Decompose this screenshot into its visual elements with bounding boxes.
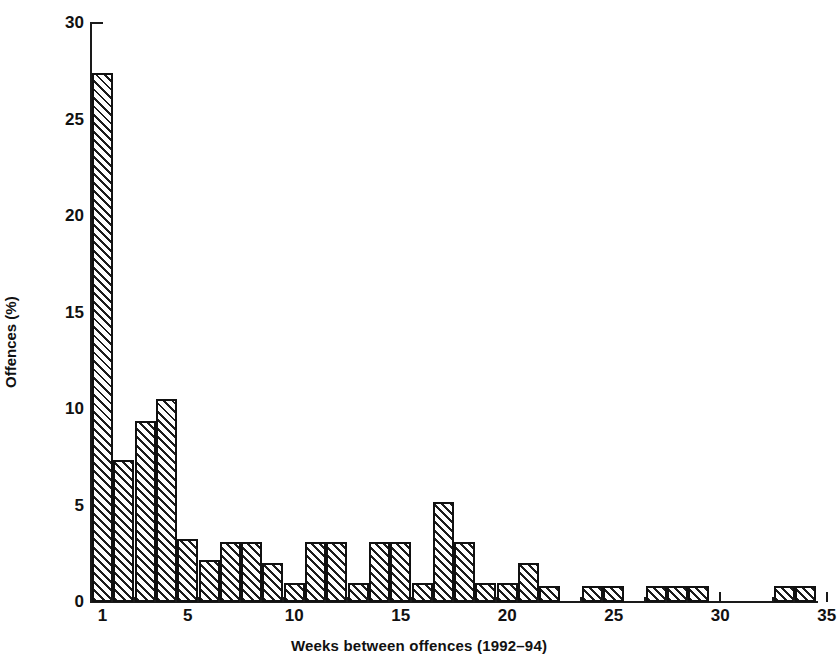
x-tick-label-35: 35 (807, 607, 838, 624)
bar-baseline-nub (772, 597, 774, 602)
bar-baseline-nub (154, 597, 156, 602)
bar-week-4 (156, 399, 177, 602)
x-tick-label-25: 25 (594, 607, 634, 624)
y-tick-label-20: 20 (38, 207, 84, 224)
x-tick-label-1: 1 (83, 607, 123, 624)
bar-week-27 (646, 586, 667, 602)
y-tick-label-25: 25 (38, 111, 84, 128)
y-axis-title: Offences (%) (2, 370, 19, 388)
bar-baseline-nub (133, 597, 135, 602)
bar-week-11 (305, 542, 326, 602)
y-tick-label-10: 10 (38, 400, 84, 417)
x-tick-label-20: 20 (487, 607, 527, 624)
bar-baseline-nub (111, 597, 113, 602)
bar-week-15 (390, 542, 411, 602)
bar-baseline-nub (431, 597, 433, 602)
x-tick-35 (826, 592, 828, 602)
bar-week-34 (795, 586, 816, 602)
bar-week-28 (667, 586, 688, 602)
bar-week-20 (497, 583, 518, 602)
bar-week-18 (454, 542, 475, 602)
bar-week-17 (433, 502, 454, 602)
bar-baseline-nub (495, 597, 497, 602)
bar-week-33 (774, 586, 795, 602)
bar-week-21 (518, 563, 539, 602)
bar-baseline-nub (410, 597, 412, 602)
bar-baseline-nub (793, 597, 795, 602)
x-tick-label-30: 30 (700, 607, 740, 624)
bar-week-5 (177, 539, 198, 602)
bar-week-29 (688, 586, 709, 602)
histogram-chart: 051015202530 15101520253035 Offences (%)… (0, 0, 838, 666)
bar-baseline-nub (644, 597, 646, 602)
x-tick-label-15: 15 (381, 607, 421, 624)
bar-baseline-nub (90, 597, 92, 602)
bar-baseline-nub (601, 597, 603, 602)
x-axis-title: Weeks between offences (1992–94) (0, 637, 838, 654)
bar-week-13 (348, 583, 369, 602)
bar-baseline-nub (452, 597, 454, 602)
bar-week-6 (199, 560, 220, 602)
x-tick-label-10: 10 (274, 607, 314, 624)
y-tick-label-0: 0 (38, 593, 84, 610)
bar-baseline-nub (282, 597, 284, 602)
bar-baseline-nub (665, 597, 667, 602)
bar-baseline-nub (197, 597, 199, 602)
bars-layer (92, 23, 816, 602)
bar-week-19 (475, 583, 496, 602)
bar-week-7 (220, 542, 241, 602)
x-tick-label-5: 5 (168, 607, 208, 624)
bar-week-22 (539, 586, 560, 602)
bar-week-10 (284, 583, 305, 602)
bar-week-25 (603, 586, 624, 602)
y-tick-label-30: 30 (38, 14, 84, 31)
bar-baseline-nub (239, 597, 241, 602)
y-tick-label-15: 15 (38, 304, 84, 321)
bar-baseline-nub (516, 597, 518, 602)
bar-week-3 (135, 421, 156, 602)
y-tick-label-5: 5 (38, 497, 84, 514)
bar-week-8 (241, 542, 262, 602)
bar-baseline-nub (324, 597, 326, 602)
bar-baseline-nub (175, 597, 177, 602)
bar-baseline-nub (388, 597, 390, 602)
bar-week-24 (582, 586, 603, 602)
bar-baseline-nub (303, 597, 305, 602)
bar-week-9 (262, 563, 283, 602)
bar-baseline-nub (367, 597, 369, 602)
bar-baseline-nub (686, 597, 688, 602)
bar-week-16 (412, 583, 433, 602)
bar-baseline-nub (537, 597, 539, 602)
bar-baseline-nub (346, 597, 348, 602)
bar-week-12 (326, 542, 347, 602)
bar-week-2 (113, 460, 134, 602)
bar-week-1 (92, 73, 113, 602)
bar-baseline-nub (580, 597, 582, 602)
bar-baseline-nub (473, 597, 475, 602)
bar-baseline-nub (260, 597, 262, 602)
bar-baseline-nub (218, 597, 220, 602)
bar-week-14 (369, 542, 390, 602)
